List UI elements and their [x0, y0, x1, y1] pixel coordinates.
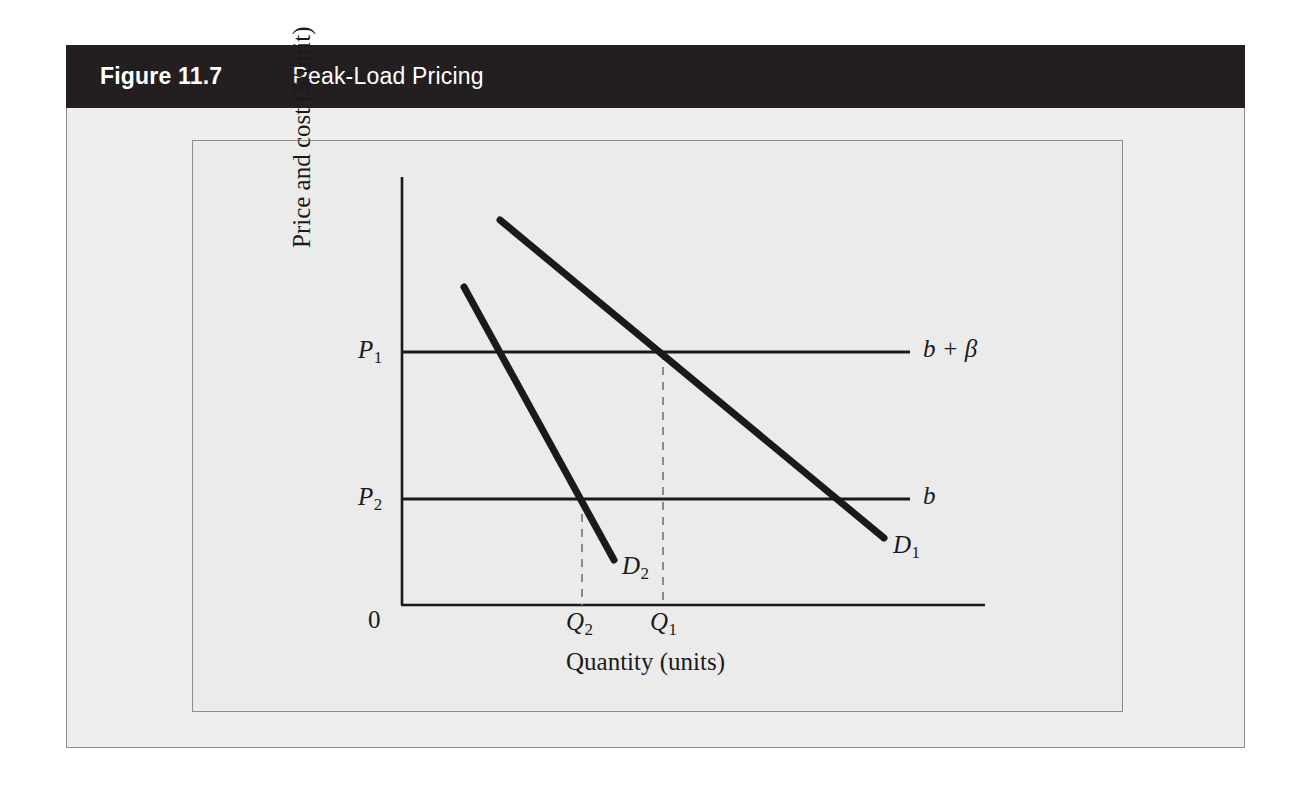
d2-letter: D [622, 552, 640, 579]
x-axis-title: Quantity (units) [566, 648, 725, 676]
d1-letter: D [893, 531, 911, 558]
figure-root: Figure 11.7 Peak-Load Pricing Price and … [0, 0, 1310, 794]
offpeak-marginal-cost-label: b [923, 482, 936, 510]
peak-marginal-cost-label: b + β [923, 335, 977, 363]
x-tick-label-q1: Q1 [650, 608, 677, 640]
curve-label-d2: D2 [622, 552, 649, 584]
y-axis-title: Price and cost ($/unit) [288, 0, 316, 248]
q1-letter: Q [650, 608, 668, 635]
p2-letter: P [358, 483, 373, 510]
curve-label-d1: D1 [893, 531, 920, 563]
d1-subscript: 1 [911, 543, 920, 562]
origin-label: 0 [368, 606, 381, 634]
figure-caption: Peak-Load Pricing [292, 63, 483, 90]
p1-subscript: 1 [373, 348, 382, 367]
figure-header-bar: Figure 11.7 Peak-Load Pricing [66, 45, 1245, 108]
x-tick-label-q2: Q2 [566, 608, 593, 640]
q2-letter: Q [566, 608, 584, 635]
figure-number: Figure 11.7 [100, 63, 222, 90]
p2-subscript: 2 [373, 495, 382, 514]
q1-subscript: 1 [668, 620, 677, 639]
p1-letter: P [358, 336, 373, 363]
y-tick-label-p2: P2 [358, 483, 382, 515]
y-tick-label-p1: P1 [358, 336, 382, 368]
d2-subscript: 2 [640, 564, 649, 583]
q2-subscript: 2 [584, 620, 593, 639]
